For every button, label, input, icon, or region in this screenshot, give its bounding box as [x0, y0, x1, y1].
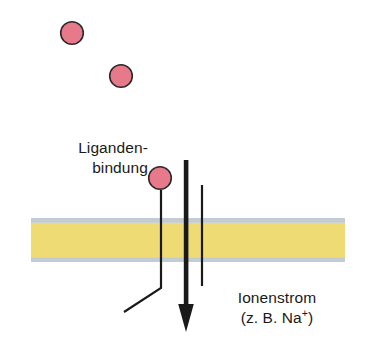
ion-flow-arrow-shaft	[184, 160, 189, 306]
ion-current-label-line1: Ionenstrom	[212, 288, 342, 308]
ligand-binding-label-line1: Liganden-	[0, 138, 148, 158]
ligand-molecule-2	[110, 65, 133, 88]
ligand-molecule-3-bound	[149, 167, 172, 190]
ligand-binding-label-line2: bindung	[0, 158, 148, 178]
ligand-molecule-1	[61, 22, 84, 45]
ion-current-label: Ionenstrom (z. B. Na+)	[212, 288, 342, 328]
ion-flow-arrow-head	[178, 304, 194, 332]
ion-current-label-prefix: (z. B. Na	[241, 309, 302, 326]
ligand-binding-label: Liganden- bindung	[0, 138, 148, 178]
ion-current-label-suffix: )	[308, 309, 313, 326]
ligand-gated-ion-channel-diagram: Liganden- bindung Ionenstrom (z. B. Na+)	[0, 0, 366, 357]
ion-current-label-line2: (z. B. Na+)	[212, 308, 342, 328]
